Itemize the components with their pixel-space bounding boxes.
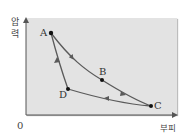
curve-d-a bbox=[51, 33, 68, 89]
point-a bbox=[49, 31, 53, 35]
point-b bbox=[100, 78, 104, 82]
y-axis-label: 압 력 bbox=[8, 16, 22, 40]
point-c bbox=[149, 104, 153, 108]
curve-c-d bbox=[68, 89, 151, 106]
point-d-label: D bbox=[59, 89, 67, 100]
x-axis-label: 부피 bbox=[160, 121, 176, 133]
pv-diagram: 압 력 부피 0 A B C D bbox=[0, 0, 188, 137]
point-b-label: B bbox=[99, 66, 106, 77]
y-axis-label-char-1: 압 bbox=[8, 16, 22, 28]
pv-cycle-graphic bbox=[0, 0, 188, 137]
y-axis-label-char-2: 력 bbox=[8, 28, 22, 40]
point-c-label: C bbox=[154, 100, 162, 111]
point-a-label: A bbox=[40, 27, 47, 38]
origin-label: 0 bbox=[17, 120, 23, 131]
